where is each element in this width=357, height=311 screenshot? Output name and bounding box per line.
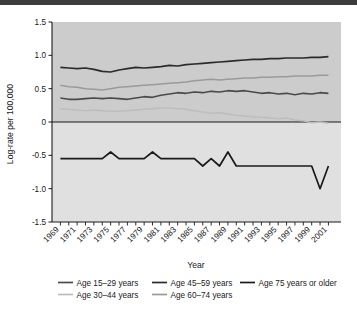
legend-label: Age 15–29 years [77,279,139,288]
x-axis-tick-labels: 1969197119731975197719791981198319851987… [42,225,330,245]
x-tick-label: 1973 [75,225,95,245]
x-tick-label: 1997 [276,225,296,245]
legend-label: Age 60–74 years [171,291,233,300]
y-tick-label: 0.5 [35,85,47,94]
x-tick-label: 1983 [159,225,179,245]
legend-item: Age 75 years or older [240,279,337,288]
x-tick-label: 1987 [192,225,212,245]
chart-figure: 1.51.00.50-0.5-1.0-1.5 19691971197319751… [0,0,357,311]
legend-item: Age 45–59 years [152,279,232,288]
y-tick-label: -0.5 [32,151,47,160]
x-tick-label: 1975 [92,225,112,245]
legend-item: Age 60–74 years [152,291,232,300]
y-axis-tick-labels: 1.51.00.50-0.5-1.0-1.5 [32,18,47,227]
x-tick-label: 1977 [109,225,129,245]
y-tick-label: 1.5 [35,18,47,27]
x-tick-label: 1985 [176,225,196,245]
x-tick-label: 1999 [293,225,313,245]
legend-item: Age 30–44 years [58,291,138,300]
y-axis-title: Log-rate per 100,000 [5,84,15,164]
plot-band-negative [52,122,341,222]
x-tick-label: 1969 [42,225,62,245]
legend-label: Age 45–59 years [171,279,233,288]
y-tick-label: 0 [41,118,46,127]
x-tick-label: 2001 [310,225,330,245]
y-tick-label: -1.5 [32,218,47,227]
x-tick-label: 1995 [259,225,279,245]
legend-item: Age 15–29 years [58,279,138,288]
x-tick-label: 1993 [243,225,263,245]
x-tick-label: 1981 [142,225,162,245]
legend-label: Age 75 years or older [259,279,338,288]
y-tick-label: 1.0 [35,51,47,60]
x-tick-label: 1971 [58,225,78,245]
y-tick-label: -1.0 [32,185,47,194]
plot-band-positive [52,22,341,122]
line-chart: 1.51.00.50-0.5-1.0-1.5 19691971197319751… [0,0,357,311]
x-tick-label: 1989 [209,225,229,245]
x-axis-title: Year [187,260,205,270]
chart-legend: Age 15–29 yearsAge 45–59 yearsAge 75 yea… [58,279,337,300]
legend-label: Age 30–44 years [77,291,139,300]
x-tick-label: 1991 [226,225,246,245]
x-tick-label: 1979 [125,225,145,245]
